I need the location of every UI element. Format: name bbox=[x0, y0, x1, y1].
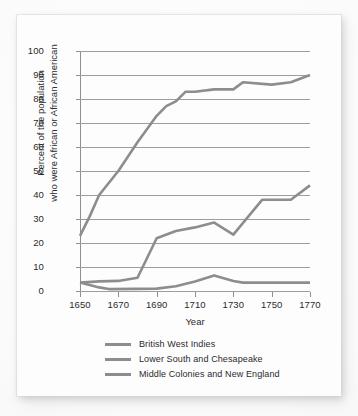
y-tick-label-0: 0 bbox=[4, 286, 44, 296]
x-tick-label-1770: 1770 bbox=[288, 300, 332, 310]
legend-label-2: Middle Colonies and New England bbox=[139, 370, 280, 379]
page-root: Percent of the population who were Afric… bbox=[0, 0, 358, 416]
series-layer bbox=[80, 51, 310, 291]
legend-item-2: Middle Colonies and New England bbox=[105, 367, 335, 382]
x-tick-mark-1730 bbox=[233, 292, 234, 297]
chart-legend: British West IndiesLower South and Chesa… bbox=[105, 337, 335, 382]
y-tick-label-70: 70 bbox=[4, 118, 44, 128]
series-line-0 bbox=[80, 75, 310, 236]
x-tick-mark-1770 bbox=[310, 292, 311, 297]
legend-item-1: Lower South and Chesapeake bbox=[105, 352, 335, 367]
y-tick-label-30: 30 bbox=[4, 214, 44, 224]
y-tick-label-60: 60 bbox=[4, 142, 44, 152]
y-axis-title-line2: who were African or African American bbox=[47, 23, 60, 223]
y-tick-label-40: 40 bbox=[4, 190, 44, 200]
y-tick-label-10: 10 bbox=[4, 262, 44, 272]
figure-card: Percent of the population who were Afric… bbox=[17, 15, 341, 396]
y-tick-label-80: 80 bbox=[4, 94, 44, 104]
legend-swatch-2 bbox=[105, 373, 131, 376]
y-tick-label-90: 90 bbox=[4, 70, 44, 80]
x-tick-mark-1690 bbox=[157, 292, 158, 297]
y-tick-label-50: 50 bbox=[4, 166, 44, 176]
x-tick-mark-1650 bbox=[80, 292, 81, 297]
y-tick-label-100: 100 bbox=[4, 46, 44, 56]
x-tick-mark-1750 bbox=[272, 292, 273, 297]
plot-area bbox=[80, 51, 310, 291]
legend-label-1: Lower South and Chesapeake bbox=[139, 355, 263, 364]
legend-swatch-1 bbox=[105, 358, 131, 361]
x-tick-mark-1670 bbox=[118, 292, 119, 297]
x-axis-title: Year bbox=[80, 316, 310, 327]
line-chart: Percent of the population who were Afric… bbox=[17, 15, 341, 396]
legend-item-0: British West Indies bbox=[105, 337, 335, 352]
legend-swatch-0 bbox=[105, 343, 131, 346]
legend-label-0: British West Indies bbox=[139, 340, 215, 349]
y-tick-label-20: 20 bbox=[4, 238, 44, 248]
series-line-1 bbox=[80, 185, 310, 282]
x-tick-mark-1710 bbox=[195, 292, 196, 297]
